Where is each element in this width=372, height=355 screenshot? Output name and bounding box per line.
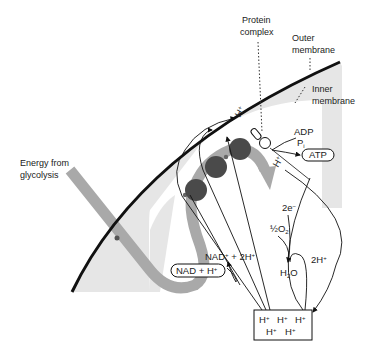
pi-label: Pi — [297, 137, 305, 149]
nadh-label: NAD + H+ — [176, 265, 218, 276]
label-energy-glycolysis-2: glycolysis — [20, 170, 59, 180]
label-protein-complex-2: complex — [240, 27, 274, 37]
label-outer-membrane-2: membrane — [292, 45, 335, 55]
carrier-2 — [205, 156, 227, 178]
atp-synthase-icon — [250, 127, 271, 148]
two-electrons-label: 2e− — [282, 202, 297, 213]
protons-to-water-arrow — [290, 254, 307, 310]
mitochondria-diagram: Protein complex Outer membrane Inner mem… — [0, 0, 372, 355]
label-inner-membrane: Inner — [312, 84, 333, 94]
label-inner-membrane-2: membrane — [312, 96, 355, 106]
half-o2-label: ½O2 — [270, 223, 289, 235]
two-h-plus-label: 2H+ — [311, 254, 327, 265]
electron-flow-arrowhead — [258, 166, 276, 190]
h2o-label: H2O — [280, 267, 298, 279]
atp-label: ATP — [309, 149, 327, 160]
label-outer-membrane: Outer — [292, 33, 315, 43]
adp-label: ADP — [294, 126, 314, 137]
label-energy-glycolysis: Energy from — [20, 158, 69, 168]
nad-plus-label: NAD+ + 2H+ — [205, 251, 256, 262]
label-protein-complex: Protein — [242, 15, 271, 25]
carrier-1 — [185, 179, 207, 201]
oxygen-to-water-arrow — [278, 236, 289, 260]
